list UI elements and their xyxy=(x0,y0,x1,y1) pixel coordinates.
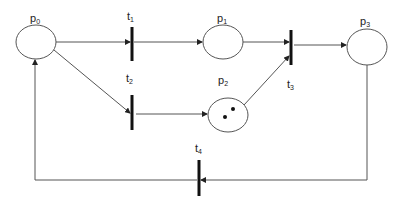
label-t4: t4 xyxy=(195,142,202,155)
label-p2: p2 xyxy=(218,74,228,87)
place-p2 xyxy=(208,98,248,132)
label-p0: p0 xyxy=(30,12,40,25)
arc-p2-t3 xyxy=(244,56,289,105)
place-p0 xyxy=(16,25,56,59)
label-p1: p1 xyxy=(217,12,227,25)
token xyxy=(231,107,235,111)
arc-t4-p0 xyxy=(35,60,197,180)
petri-net-diagram: p0 p1 p2 p3 t1 t2 t3 t4 xyxy=(0,0,394,203)
label-t2: t2 xyxy=(126,72,133,85)
place-p1 xyxy=(203,25,243,59)
label-t1: t1 xyxy=(127,10,134,23)
label-p3: p3 xyxy=(360,15,370,28)
label-t3: t3 xyxy=(287,78,294,91)
token xyxy=(223,115,227,119)
arc-p0-t2 xyxy=(54,50,130,113)
place-p3 xyxy=(347,29,387,65)
